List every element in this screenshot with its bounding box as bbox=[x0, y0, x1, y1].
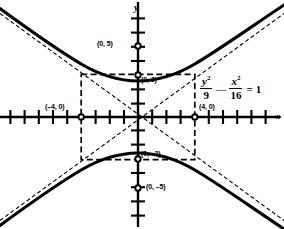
label-focus-lower: (0, –5) bbox=[146, 183, 166, 190]
minus-operator: — bbox=[215, 83, 226, 95]
hyperbola-figure: . bbox=[0, 0, 284, 229]
numerator-x-squared: x2 bbox=[229, 76, 242, 89]
equals-sign: = bbox=[246, 83, 252, 95]
marker-box-right bbox=[192, 114, 197, 119]
marker-focus-upper bbox=[135, 43, 140, 48]
lower-branch bbox=[0, 153, 284, 229]
exponent-2: 2 bbox=[207, 74, 211, 82]
label-box-left: (–4, 0) bbox=[45, 103, 65, 110]
marker-focus-lower bbox=[135, 185, 140, 190]
y-axis-label: y bbox=[134, 2, 138, 13]
x-axis-label: x bbox=[276, 112, 280, 121]
plot-canvas bbox=[0, 0, 284, 229]
marker-vertex-lower bbox=[135, 156, 140, 161]
denominator-9: 9 bbox=[203, 89, 209, 101]
label-vertex-upper: (0, 3) bbox=[141, 76, 157, 83]
denominator-16: 16 bbox=[230, 89, 241, 101]
label-box-right: (4, 0) bbox=[199, 103, 215, 110]
equation-annotation: y2 9 — x2 16 = 1 bbox=[199, 76, 261, 101]
fraction-x-squared-over-16: x2 16 bbox=[229, 76, 242, 101]
label-vertex-lower: (0, –3) bbox=[141, 150, 161, 157]
marker-vertex-upper bbox=[135, 72, 140, 77]
fraction-y-squared-over-9: y2 9 bbox=[200, 76, 212, 101]
label-focus-upper: (0, 5) bbox=[97, 40, 113, 47]
numerator-y-squared: y2 bbox=[200, 76, 212, 89]
right-side-value: 1 bbox=[256, 83, 262, 95]
exponent-2: 2 bbox=[237, 74, 241, 82]
marker-box-left bbox=[79, 114, 84, 119]
upper-branch bbox=[0, 5, 284, 81]
